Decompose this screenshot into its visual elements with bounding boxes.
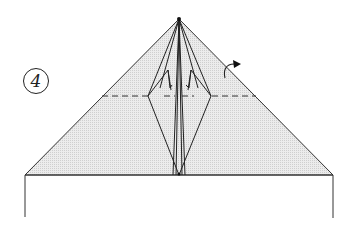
origami-diagram (0, 0, 360, 233)
bottom-point (177, 172, 180, 175)
apex-point (177, 17, 181, 21)
